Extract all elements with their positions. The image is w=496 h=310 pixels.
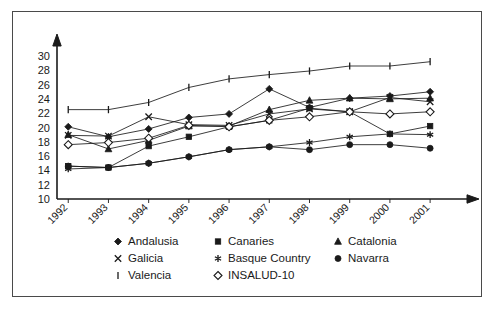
legend-label: INSALUD-10	[228, 269, 294, 281]
data-point-marker	[146, 160, 152, 166]
data-point-marker	[266, 85, 273, 92]
legend-item: Andalusia	[115, 235, 180, 247]
data-point-marker	[347, 142, 353, 148]
chart-frame: 1012141618202224262830 19921993199419951…	[12, 11, 482, 297]
data-point-marker	[387, 142, 393, 148]
chart-legend: AndalusiaCanariesCataloniaGaliciaBasque …	[115, 235, 398, 281]
y-tick-label: 28	[38, 64, 50, 76]
series-valencia	[68, 58, 430, 113]
legend-marker-filled-diamond-icon	[115, 238, 122, 245]
y-axis-arrow-icon	[53, 34, 61, 46]
y-tick-label: 12	[38, 179, 50, 191]
series-line	[68, 97, 430, 136]
series-insalud-10	[64, 108, 434, 149]
legend-label: Andalusia	[128, 235, 179, 247]
x-tick-label: 1998	[286, 201, 311, 226]
legend-marker-filled-triangle-icon	[335, 238, 342, 244]
y-tick-label: 22	[38, 107, 50, 119]
legend-label: Canaries	[228, 235, 274, 247]
legend-marker-open-diamond-icon	[214, 272, 222, 280]
y-tick-label: 10	[38, 193, 50, 205]
series-canaries	[66, 105, 433, 170]
legend-item: Canaries	[215, 235, 274, 247]
legend-marker-filled-square-icon	[215, 239, 220, 244]
data-point-marker	[306, 147, 312, 153]
line-chart-plot: 1012141618202224262830 19921993199419951…	[13, 12, 481, 296]
data-point-marker	[146, 143, 151, 148]
series-line	[68, 134, 430, 169]
x-tick-label: 2001	[407, 201, 432, 226]
legend-label: Valencia	[128, 269, 172, 281]
legend-label: Galicia	[128, 252, 164, 264]
series-line	[68, 108, 430, 167]
x-axis-arrow-icon	[467, 195, 479, 203]
data-point-marker	[226, 110, 233, 117]
data-point-marker	[186, 134, 191, 139]
x-tick-label: 1993	[85, 201, 110, 226]
x-tick-label: 2000	[366, 201, 391, 226]
figure-root: 1012141618202224262830 19921993199419951…	[0, 0, 496, 310]
x-tick-label: 1994	[125, 201, 150, 226]
legend-marker-filled-circle-icon	[335, 256, 341, 262]
y-tick-label: 24	[38, 93, 50, 105]
y-tick-label: 30	[38, 50, 50, 62]
legend-marker-cross-x-icon	[115, 255, 121, 261]
data-point-marker	[427, 123, 432, 128]
data-point-marker	[64, 141, 72, 149]
y-tick-label: 26	[38, 79, 50, 91]
data-point-marker	[305, 113, 313, 121]
data-point-marker	[226, 147, 232, 153]
x-tick-label: 1999	[326, 201, 351, 226]
data-point-marker	[105, 165, 111, 171]
series-andalusia	[65, 85, 434, 140]
y-tick-label: 20	[38, 122, 50, 134]
legend-item: Catalonia	[335, 235, 398, 247]
legend-marker-asterisk-icon	[215, 255, 221, 262]
y-tick-label: 14	[38, 164, 50, 176]
data-point-marker	[104, 139, 112, 147]
legend-item: Galicia	[115, 252, 164, 264]
series-line	[68, 145, 430, 168]
x-tick-label: 1997	[246, 201, 271, 226]
y-tick-label: 16	[38, 150, 50, 162]
data-point-marker	[145, 114, 151, 120]
data-point-marker	[266, 144, 272, 150]
data-point-marker	[65, 163, 71, 169]
data-point-marker	[145, 125, 152, 132]
legend-label: Basque Country	[228, 252, 311, 264]
y-axis: 1012141618202224262830	[38, 34, 61, 205]
data-point-marker	[186, 154, 192, 160]
x-tick-label: 1996	[205, 201, 230, 226]
legend-item: Valencia	[118, 269, 172, 281]
legend-label: Navarra	[348, 252, 390, 264]
data-point-marker	[65, 131, 72, 137]
legend-label: Catalonia	[348, 235, 397, 247]
legend-item: Navarra	[335, 252, 390, 264]
series-container	[64, 58, 434, 172]
x-axis: 1992199319941995199619971998199920002001	[45, 195, 479, 226]
data-point-marker	[65, 123, 72, 130]
series-line	[68, 112, 430, 145]
y-tick-label: 18	[38, 136, 50, 148]
legend-item: Basque Country	[215, 252, 311, 264]
data-point-marker	[427, 145, 433, 151]
legend-item: INSALUD-10	[214, 269, 294, 281]
data-point-marker	[185, 114, 192, 121]
data-point-marker	[426, 108, 434, 116]
x-tick-label: 1995	[165, 201, 190, 226]
data-point-marker	[386, 110, 394, 118]
